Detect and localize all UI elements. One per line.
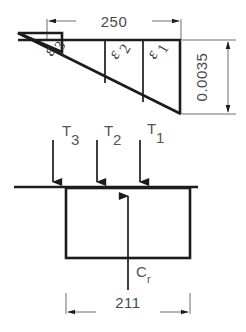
compression-symbol: C — [136, 263, 147, 280]
tension-forces-group: T 3 T 2 T 1 — [53, 120, 164, 182]
top-width-label: 250 — [101, 13, 128, 30]
compression-subscript: r — [147, 273, 151, 285]
strain-diagram-group: ε 3 ε 2 ε 1 — [18, 33, 181, 114]
top-dimension-group: 250 — [47, 13, 181, 40]
tension-label-3: T 3 — [62, 122, 79, 148]
tension-2-symbol: T — [104, 122, 113, 139]
strain-diagram-figure: 250 ε 3 ε 2 — [0, 0, 246, 332]
beam-section-group — [14, 187, 198, 258]
tension-1-symbol: T — [147, 120, 156, 137]
diagram-canvas: 250 ε 3 ε 2 — [0, 0, 246, 332]
tension-1-subscript: 1 — [156, 129, 164, 146]
bottom-width-label: 211 — [115, 294, 140, 311]
tension-3-subscript: 3 — [71, 131, 79, 148]
strain-max-label: 0.0035 — [193, 53, 210, 102]
strain-dimension-group: 0.0035 — [182, 40, 236, 114]
tension-label-2: T 2 — [104, 122, 121, 148]
compression-label: C r — [136, 263, 151, 285]
bottom-dimension-group: 211 — [66, 293, 190, 314]
strain-label-epsilon-1: ε 1 — [142, 37, 172, 64]
compression-force-group: C r — [128, 196, 151, 290]
tension-label-1: T 1 — [147, 120, 164, 146]
tension-3-symbol: T — [62, 122, 71, 139]
strain-label-epsilon-2: ε 2 — [104, 37, 134, 64]
tension-2-subscript: 2 — [113, 131, 121, 148]
